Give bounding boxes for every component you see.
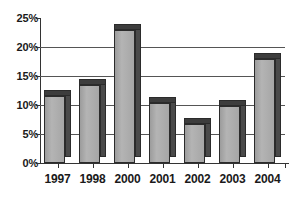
gridline xyxy=(40,47,285,48)
bar-side-face xyxy=(240,100,246,157)
bar xyxy=(219,106,240,163)
x-axis-tick-mark xyxy=(285,164,286,168)
bar-side-face xyxy=(170,97,176,157)
bar-side-face xyxy=(65,90,71,157)
gridline xyxy=(40,76,285,77)
bar-side-face xyxy=(135,24,141,157)
x-axis-ticks xyxy=(40,164,289,169)
x-axis-tick-label: 2000 xyxy=(115,172,141,186)
bar-front-face xyxy=(114,30,135,163)
y-axis-tick-mark xyxy=(36,18,40,19)
bar-front-face xyxy=(44,96,65,163)
y-axis-tick-label: 25% xyxy=(4,13,38,24)
x-axis-tick-mark xyxy=(93,164,94,168)
y-axis-tick-label: 20% xyxy=(4,42,38,53)
x-axis-tick-mark xyxy=(268,164,269,168)
bar xyxy=(79,85,100,163)
x-axis-tick-label: 1998 xyxy=(80,172,106,186)
y-axis-tick-label: 15% xyxy=(4,71,38,82)
y-axis-tick-label: 10% xyxy=(4,100,38,111)
bar xyxy=(254,59,275,163)
bar-front-face xyxy=(149,103,170,163)
bar-front-face xyxy=(254,59,275,163)
bar xyxy=(184,124,205,163)
bar-side-face xyxy=(275,53,281,157)
x-axis-tick-label: 2002 xyxy=(185,172,211,186)
bar-side-face xyxy=(100,79,106,157)
x-axis-tick-mark xyxy=(233,164,234,168)
bar-front-face xyxy=(219,106,240,163)
x-axis-tick-mark xyxy=(163,164,164,168)
x-axis-tick-label: 1997 xyxy=(45,172,71,186)
y-axis-line xyxy=(40,18,41,163)
bar xyxy=(114,30,135,163)
y-axis: 0%5%10%15%20%25% xyxy=(0,0,38,197)
bar-chart: 0%5%10%15%20%25% 19971998200020012002200… xyxy=(0,0,295,197)
bar-front-face xyxy=(79,85,100,163)
y-axis-tick-label: 5% xyxy=(4,129,38,140)
x-axis-tick-label: 2001 xyxy=(150,172,176,186)
x-axis-tick-mark xyxy=(128,164,129,168)
x-axis: 1997199820002001200220032004 xyxy=(40,172,289,192)
y-axis-tick-label: 0% xyxy=(4,158,38,169)
x-axis-tick-label: 2003 xyxy=(220,172,246,186)
bar xyxy=(149,103,170,163)
plot-area xyxy=(40,18,285,163)
x-axis-tick-mark xyxy=(198,164,199,168)
bar-front-face xyxy=(184,124,205,163)
x-axis-tick-label: 2004 xyxy=(255,172,281,186)
bar xyxy=(44,96,65,163)
x-axis-tick-mark xyxy=(58,164,59,168)
